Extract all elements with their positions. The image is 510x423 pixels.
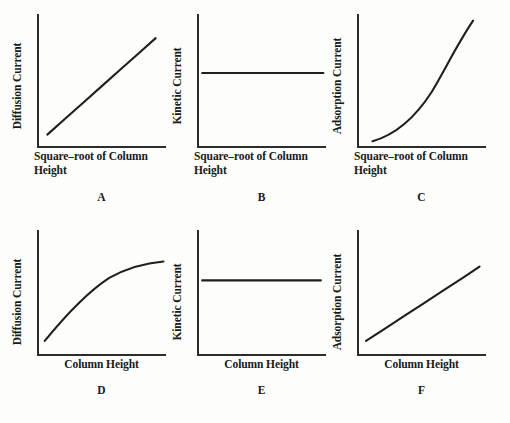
y-axis-label: Adsorption Current (328, 16, 346, 156)
y-axis-label: Diffusion Current (8, 232, 26, 372)
panel-a: Diffusion Current Square–root of Column … (0, 0, 170, 211)
plot-area-b (197, 14, 326, 148)
x-axis-label-line1: Column Height (37, 358, 166, 372)
x-axis-label: Square–root of Column Height (354, 150, 490, 177)
panel-letter-e: E (197, 384, 326, 396)
plot-area-e (197, 230, 326, 356)
panel-letter-a: A (37, 191, 166, 203)
y-axis-label: Adsorption Current (328, 232, 346, 372)
x-axis-label-line2: Height (354, 164, 490, 178)
y-axis-label: Kinetic Current (168, 232, 186, 372)
curve-d (37, 230, 166, 356)
x-axis-label-line1: Square–root of Column (354, 150, 490, 164)
curve-f (357, 230, 486, 356)
x-axis-label: Square–root of Column Height (194, 150, 330, 177)
panel-letter-f: F (357, 384, 486, 396)
x-axis-label-line2: Height (34, 164, 170, 178)
y-axis-label: Kinetic Current (168, 16, 186, 156)
x-axis-label-line2: Height (194, 164, 330, 178)
curve-c (357, 14, 486, 148)
x-axis-label-line1: Column Height (197, 358, 326, 372)
panel-letter-b: B (197, 191, 326, 203)
plot-area-f (357, 230, 486, 356)
x-axis-label-line1: Column Height (357, 358, 486, 372)
x-axis-label-line1: Square–root of Column (194, 150, 330, 164)
x-axis-label: Column Height (197, 358, 326, 372)
x-axis-label: Square–root of Column Height (34, 150, 170, 177)
panel-f: Adsorption Current Column Height F (320, 212, 490, 423)
curve-b (197, 14, 326, 148)
panel-b: Kinetic Current Square–root of Column He… (160, 0, 330, 211)
x-axis-label: Column Height (37, 358, 166, 372)
panel-c: Adsorption Current Square–root of Column… (320, 0, 490, 211)
x-axis-label-line1: Square–root of Column (34, 150, 170, 164)
curve-a (37, 14, 166, 148)
panel-e: Kinetic Current Column Height E (160, 212, 330, 423)
panel-d: Diffusion Current Column Height D (0, 212, 170, 423)
figure-panel-grid: Diffusion Current Square–root of Column … (0, 0, 510, 423)
plot-area-c (357, 14, 486, 148)
y-axis-label: Diffusion Current (8, 16, 26, 156)
panel-letter-d: D (37, 384, 166, 396)
plot-area-a (37, 14, 166, 148)
plot-area-d (37, 230, 166, 356)
curve-e (197, 230, 326, 356)
x-axis-label: Column Height (357, 358, 486, 372)
panel-letter-c: C (357, 191, 486, 203)
